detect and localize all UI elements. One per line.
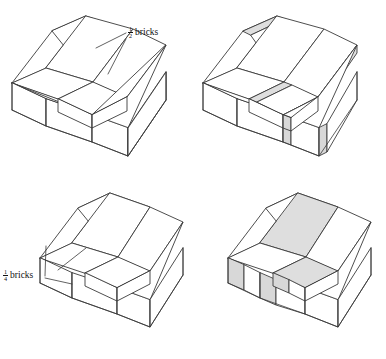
panel-bottom-left [40, 193, 183, 327]
brick-side-face [244, 265, 260, 298]
quarter-fraction: 1 4 [3, 269, 8, 283]
quarter-bricks-word: bricks [10, 271, 33, 281]
panel-top-right [203, 16, 357, 156]
half-fraction: 1 2 [128, 26, 133, 40]
half-bricks-word: bricks [135, 28, 158, 38]
quarter-bricks-callout-label: 1 4 bricks [3, 269, 33, 283]
half-bricks-callout-label: 1 2 bricks [128, 26, 158, 40]
brick-side-face-shaded [319, 124, 327, 156]
panel-bottom-right [228, 193, 371, 327]
quarter-fraction-denominator: 4 [3, 275, 8, 282]
half-fraction-denominator: 2 [128, 32, 133, 39]
figure-root: 1 2 bricks 1 4 bricks [0, 0, 386, 359]
brick-step-face-shaded [283, 115, 291, 131]
brick-bond-figure [0, 0, 386, 359]
